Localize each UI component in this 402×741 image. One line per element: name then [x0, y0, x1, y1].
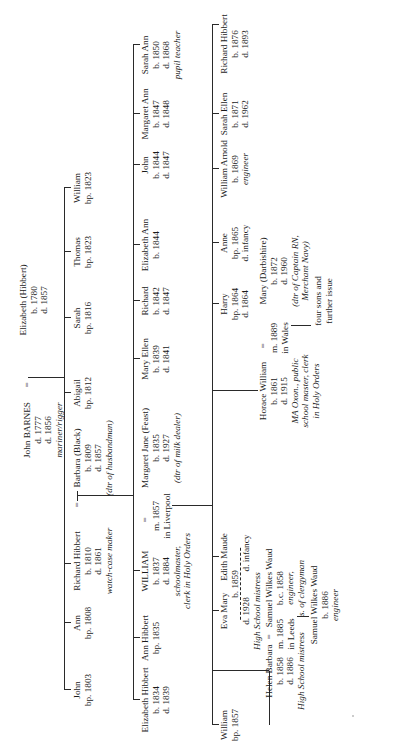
person: Thomas bp. 1823 [72, 236, 93, 268]
tick [64, 622, 71, 623]
tick [212, 556, 219, 557]
tick [212, 168, 219, 169]
person: Eva Mary [219, 593, 230, 629]
tick [212, 242, 219, 243]
person: Mary Ellen b. 1839 d. 1841 [140, 338, 172, 380]
tick [212, 610, 219, 611]
tick [133, 699, 140, 700]
marriage-info: m. 1857 in Liverpool [151, 493, 172, 539]
tick [212, 303, 219, 304]
person: Anne bp. 1865 d. infancy [219, 225, 251, 262]
scan-speck [352, 715, 354, 717]
person: William Arnold b. 1869 engineer [219, 140, 251, 198]
marriage-symbol: = [264, 634, 275, 639]
person-john-barnes: John BARNES d. 1777 d. 1856 mariner/rigg… [22, 402, 64, 458]
twins-birth: b. 1859 [230, 548, 241, 620]
person: Sarah Ann b. 1850 d. 1868 pupil teacher [140, 31, 182, 80]
descent-line [28, 377, 64, 378]
tick [64, 187, 71, 188]
descent-line [291, 325, 311, 326]
person-samuel-wilkes-waud-jr: Samuel Wilkes Waud b. 1886 engineer [309, 566, 341, 645]
sibling-bracket [212, 25, 213, 725]
person-details: d. 1928 High School mistress [241, 572, 262, 650]
tick [133, 244, 140, 245]
descent-line [172, 505, 212, 506]
tick [64, 317, 71, 318]
tick [133, 164, 140, 165]
person-mary-darbishire: Mary (Darbishire) b. 1872 d. 1960 (dtr o… [258, 235, 311, 306]
person-details: d. infancy [241, 535, 252, 572]
person: Richard Hibbert b. 1876 d. 1893 [219, 14, 251, 73]
tick [133, 113, 140, 114]
marriage-symbol: = [22, 382, 33, 387]
marriage-symbol: = [140, 517, 151, 522]
sibling-bracket [133, 45, 134, 700]
tick [212, 24, 219, 25]
person-horace-william: Horace William b. 1861 d. 1915 MA Oxon.,… [258, 354, 322, 427]
person: Barbara (Black) b. 1809 d. 1857 (dtr of … [72, 420, 114, 496]
descent-line [297, 616, 309, 617]
person: Sarah Ellen b. 1871 d. 1962 [219, 93, 251, 136]
tick [64, 392, 71, 393]
tick [64, 251, 71, 252]
person: Ann Hibbert bp. 1835 [140, 615, 161, 661]
tick [212, 113, 219, 114]
descent-line [77, 495, 133, 496]
tick [133, 358, 140, 359]
person: Richard b. 1842 d. 1847 [140, 286, 172, 315]
person: Sarah bp. 1816 [72, 302, 93, 334]
sibling-bracket [64, 188, 65, 690]
person: Ann bp. 1808 [72, 607, 93, 639]
marriage-info: m. 1889 in Wales [269, 322, 290, 354]
family-tree: John BARNES d. 1777 d. 1856 mariner/rigg… [0, 0, 402, 741]
person-elizabeth-hibbert: Elizabeth (Hibbert) b. 1780 d. 1857 [18, 264, 50, 335]
person-name: John BARNES [22, 402, 33, 458]
person: Elizabeth Hibbert b. 1834 d. 1839 [140, 667, 172, 732]
person-william-main: WILLIAM b. 1837 d. 1884 schoolmaster, cl… [140, 533, 193, 609]
person: Abigail bp. 1812 [72, 377, 93, 409]
person: John bp. 1803 [72, 674, 93, 706]
marriage-line [77, 491, 78, 501]
issue-note: four sons and further issue [313, 276, 334, 326]
person: Margaret Ann b. 1847 d. 1848 [140, 88, 172, 139]
person: Elizabeth Ann b. 1844 [140, 219, 161, 271]
tick [212, 390, 258, 391]
tick [212, 724, 219, 725]
marriage-symbol: = [258, 343, 269, 348]
tick [133, 570, 140, 571]
person: William bp. 1823 [72, 172, 93, 204]
tick [133, 44, 140, 45]
person: John b. 1844 d. 1847 [140, 151, 172, 179]
person: Edith Maude [219, 533, 230, 581]
person: Margaret Jane (Feast) b. 1835 d. 1927 (d… [140, 408, 182, 488]
tick [212, 670, 269, 671]
tick [64, 563, 71, 564]
marriage-symbol: = [72, 502, 83, 507]
tick [133, 300, 140, 301]
tick [64, 689, 71, 690]
tick [133, 637, 140, 638]
person: Harry bp. 1864 d. 1864 [219, 288, 251, 320]
person: William bp. 1857 [219, 709, 240, 741]
person: Richard Hibbert b. 1810 d. 1861 watch-ca… [72, 528, 114, 595]
